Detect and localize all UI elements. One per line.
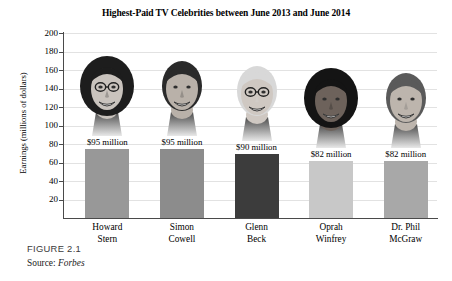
y-axis-tick-label: 120 <box>32 103 58 112</box>
y-axis-tick-label: 40 <box>32 177 58 186</box>
bar-column: $90 million <box>235 33 279 218</box>
y-axis-title: Earnings (millions of dollars) <box>18 33 28 213</box>
y-axis-tick-label: 140 <box>32 84 58 93</box>
figure-source-prefix: Source: <box>27 258 58 268</box>
bar-column: $82 million <box>384 33 428 218</box>
y-axis-tick <box>59 107 64 108</box>
x-axis-line <box>63 218 438 219</box>
y-axis-tick <box>59 70 64 71</box>
y-axis-tick-label: 200 <box>32 29 58 38</box>
figure-source-name: Forbes <box>58 258 85 268</box>
bar-column: $82 million <box>309 33 353 218</box>
bar <box>235 154 279 218</box>
bar-value-label: $82 million <box>385 149 426 159</box>
bar-value-label: $82 million <box>311 149 352 159</box>
y-axis-tick-label: 60 <box>32 158 58 167</box>
glenn-beck-portrait <box>228 57 286 141</box>
bar <box>160 149 204 218</box>
y-axis-tick-label: 160 <box>32 66 58 75</box>
y-axis-tick <box>59 33 64 34</box>
y-axis-tick <box>59 126 64 127</box>
bar <box>85 149 129 218</box>
y-axis-tick <box>59 52 64 53</box>
bar-column: $95 million <box>160 33 204 218</box>
bar-value-label: $95 million <box>161 137 202 147</box>
y-axis-tick-label: 80 <box>32 140 58 149</box>
figure-source: Source: Forbes <box>27 258 85 268</box>
x-axis-labels: HowardSternSimonCowellGlennBeckOprahWinf… <box>64 222 437 256</box>
bar <box>384 161 428 218</box>
bar-value-label: $90 million <box>236 142 277 152</box>
bar-columns: $95 million $95 million <box>64 33 437 218</box>
y-axis-tick-label: 180 <box>32 47 58 56</box>
y-axis-tick <box>59 163 64 164</box>
bar-value-label: $95 million <box>87 137 128 147</box>
y-axis-tick <box>59 144 64 145</box>
y-axis-tick <box>59 200 64 201</box>
bar-column: $95 million <box>85 33 129 218</box>
category-line-2: McGraw <box>362 234 450 246</box>
y-axis-tick-label: 20 <box>32 195 58 204</box>
y-axis-labels: 20406080100120140160180200 <box>28 0 58 281</box>
y-axis-tick <box>59 89 64 90</box>
x-axis-category-label: Dr. PhilMcGraw <box>362 222 450 245</box>
category-line-1: Dr. Phil <box>362 222 450 234</box>
y-axis-tick-label: 100 <box>32 121 58 130</box>
chart-title: Highest-Paid TV Celebrities between June… <box>0 8 452 18</box>
bar <box>309 161 353 218</box>
dr-phil-mcgraw-portrait <box>377 64 435 148</box>
howard-stern-portrait <box>78 52 136 136</box>
figure-caption: FIGURE 2.1 <box>27 243 81 254</box>
simon-cowell-portrait <box>153 52 211 136</box>
oprah-winfrey-portrait <box>302 64 360 148</box>
y-axis-tick <box>59 181 64 182</box>
